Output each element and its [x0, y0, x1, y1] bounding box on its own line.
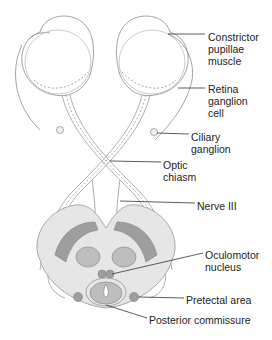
label-constrictor-pupillae-muscle: Constrictor pupillae muscle [208, 31, 259, 67]
pretectal-right [130, 293, 139, 302]
label-nerve-iii: Nerve III [197, 200, 237, 212]
label-oculomotor-nucleus: Oculomotor nucleus [205, 249, 259, 273]
oculomotor-nucleus-left [98, 270, 106, 278]
midbrain [37, 205, 175, 308]
ciliary-ganglion-right [151, 129, 158, 136]
red-nucleus-left [76, 247, 100, 267]
ciliary-ganglion-left [57, 127, 64, 134]
left-eye [16, 16, 94, 130]
label-optic-chiasm: Optic chiasm [163, 159, 196, 183]
label-ciliary-ganglion: Ciliary ganglion [191, 131, 231, 155]
label-posterior-commissure: Posterior commissure [149, 314, 251, 326]
red-nucleus-right [112, 247, 136, 267]
label-pretectal-area: Pretectal area [186, 294, 251, 306]
label-retina-ganglion-cell: Retina ganglion cell [208, 83, 248, 119]
right-eye [116, 16, 192, 140]
pretectal-left [74, 293, 83, 302]
